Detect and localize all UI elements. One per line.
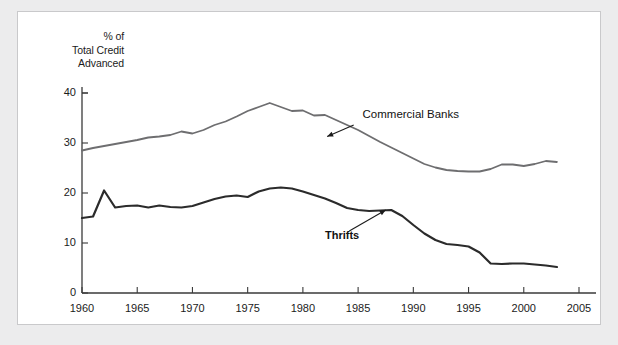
chart-panel: % of Total Credit Advanced 0102030401960… (17, 11, 601, 325)
x-axis-tick-label: 1970 (169, 302, 215, 314)
x-axis-tick-label: 2000 (501, 302, 547, 314)
thrifts-leader-arrow-shaft (349, 210, 385, 231)
line-chart-plot (18, 12, 602, 326)
series-line-1 (82, 188, 557, 268)
y-axis-tick-label: 40 (50, 86, 76, 98)
commercial-banks-series-label: Commercial Banks (363, 108, 460, 120)
x-axis-tick-label: 1965 (114, 302, 160, 314)
y-axis-tick-label: 30 (50, 136, 76, 148)
figure-root: % of Total Credit Advanced 0102030401960… (0, 0, 618, 345)
y-axis-tick-label: 20 (50, 186, 76, 198)
series-line-0 (82, 103, 557, 172)
x-axis-tick-label: 1995 (446, 302, 492, 314)
commercial-banks-leader-arrow (327, 125, 354, 137)
x-axis-tick-label: 1960 (59, 302, 105, 314)
y-axis-tick-label: 0 (50, 286, 76, 298)
x-axis-tick-label: 1975 (225, 302, 271, 314)
thrifts-leader-arrow (349, 210, 385, 231)
x-axis-tick-label: 1980 (280, 302, 326, 314)
x-axis-tick-label: 1990 (390, 302, 436, 314)
x-axis-tick-label: 2005 (556, 302, 602, 314)
thrifts-series-label: Thrifts (325, 229, 359, 241)
x-axis-tick-label: 1985 (335, 302, 381, 314)
y-axis-tick-label: 10 (50, 236, 76, 248)
